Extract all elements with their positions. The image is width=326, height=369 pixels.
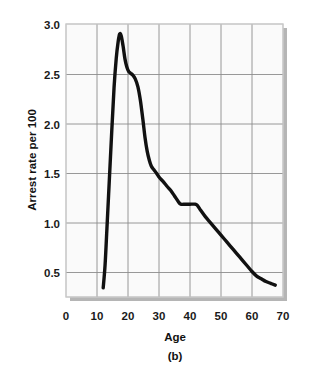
- arrest-rate-by-age-chart: 3.0 2.5 2.0 1.5 1.0 0.5 0 10 20 30 40 50…: [0, 0, 326, 369]
- x-tick-50: 50: [215, 310, 228, 322]
- y-axis-title: Arrest rate per 100: [26, 109, 38, 211]
- x-tick-10: 10: [91, 310, 104, 322]
- x-tick-20: 20: [122, 310, 135, 322]
- y-tick-2.5: 2.5: [44, 69, 61, 81]
- x-axis-title: Age: [164, 331, 186, 343]
- x-tick-0: 0: [63, 310, 69, 322]
- y-tick-1.0: 1.0: [44, 218, 60, 230]
- x-tick-30: 30: [153, 310, 166, 322]
- x-tick-70: 70: [277, 310, 290, 322]
- y-tick-1.5: 1.5: [44, 168, 61, 180]
- x-tick-40: 40: [184, 310, 197, 322]
- plot-area-background: [66, 24, 283, 297]
- figure-panel: 3.0 2.5 2.0 1.5 1.0 0.5 0 10 20 30 40 50…: [0, 0, 326, 369]
- y-tick-2.0: 2.0: [44, 119, 60, 131]
- x-tick-60: 60: [246, 310, 259, 322]
- panel-caption: (b): [168, 350, 183, 362]
- y-tick-0.5: 0.5: [44, 267, 61, 279]
- y-tick-3.0: 3.0: [44, 19, 60, 31]
